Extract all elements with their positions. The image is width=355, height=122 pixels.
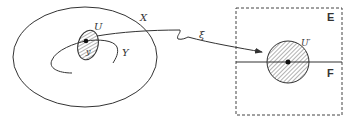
manifold-chart-diagram: X U y Y ξ U′ E F [0,0,355,122]
image-point-dot [286,60,291,65]
point-y-dot [84,39,89,44]
label-y-point: y [85,47,91,56]
label-y-submanifold: Y [122,47,130,58]
label-u-prime: U′ [301,38,311,48]
label-f: F [327,67,334,79]
diagram-canvas: X U y Y ξ U′ E F [0,0,355,122]
neighborhood-u-region [74,28,101,62]
label-u: U [94,21,103,32]
label-x: X [139,12,148,23]
label-xi: ξ [199,29,205,40]
label-e: E [327,11,334,23]
